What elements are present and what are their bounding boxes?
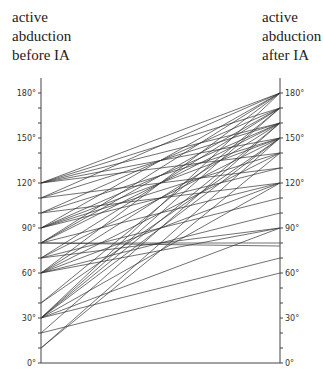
patient-line — [41, 93, 280, 228]
patient-line — [41, 108, 280, 318]
right-tick-label: 0° — [285, 359, 294, 368]
patient-line — [41, 228, 280, 318]
slope-chart: 0°0°30°30°60°60°90°90°120°120°150°150°18… — [0, 0, 323, 385]
right-tick-label: 150° — [285, 134, 304, 143]
patient-line — [41, 258, 280, 318]
left-tick-label: 30° — [22, 314, 36, 323]
patient-line — [41, 153, 280, 228]
patient-line — [41, 93, 280, 318]
patient-line — [41, 108, 280, 243]
left-tick-label: 180° — [17, 89, 36, 98]
patient-line — [41, 93, 280, 273]
left-tick-label: 150° — [17, 134, 36, 143]
left-tick-label: 120° — [17, 179, 36, 188]
patient-lines — [41, 93, 280, 348]
right-tick-label: 120° — [285, 179, 304, 188]
patient-line — [41, 123, 280, 183]
patient-line — [41, 123, 280, 333]
right-tick-label: 30° — [285, 314, 299, 323]
right-tick-label: 180° — [285, 89, 304, 98]
patient-line — [41, 273, 280, 333]
left-tick-label: 90° — [22, 224, 36, 233]
right-tick-label: 60° — [285, 269, 299, 278]
right-tick-label: 90° — [285, 224, 299, 233]
left-tick-label: 60° — [22, 269, 36, 278]
left-tick-label: 0° — [27, 359, 36, 368]
